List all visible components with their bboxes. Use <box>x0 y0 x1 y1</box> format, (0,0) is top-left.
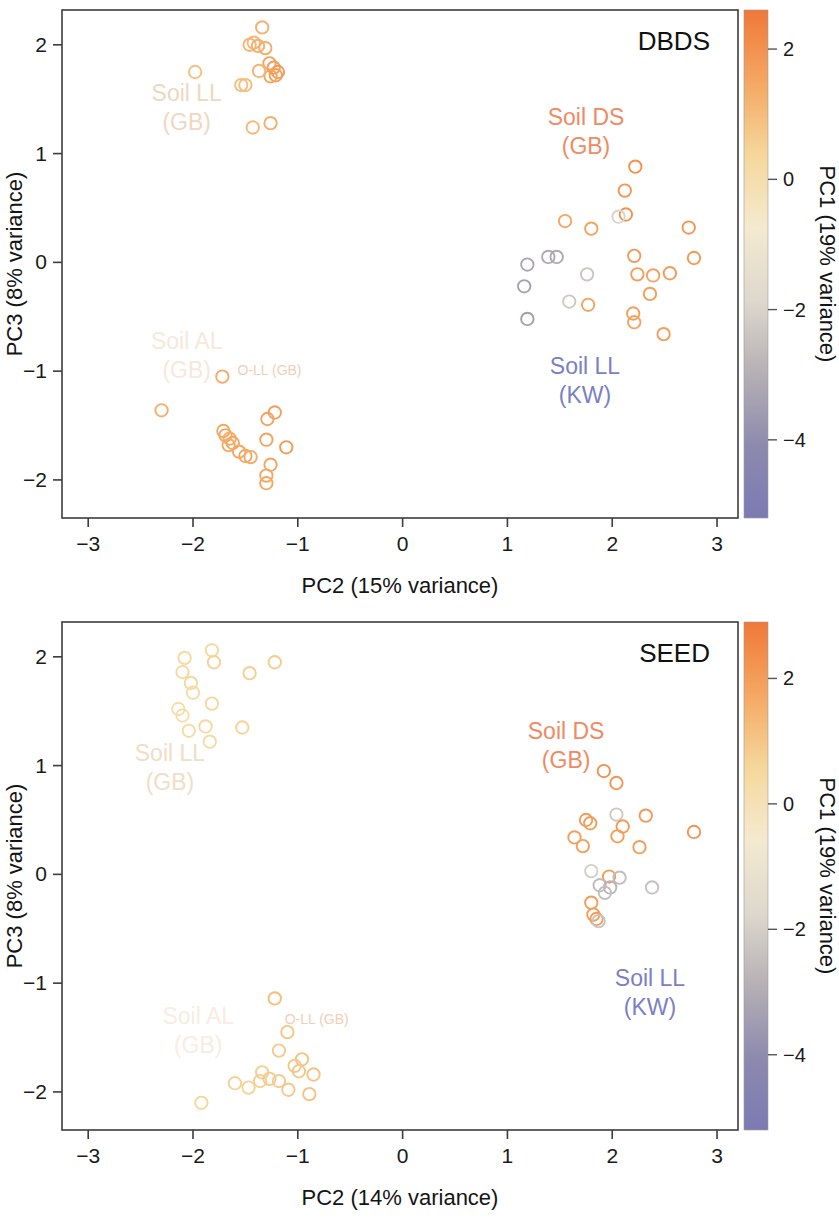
data-point <box>644 288 656 300</box>
cluster-label-line: (GB) <box>146 769 195 795</box>
data-point <box>273 1044 285 1056</box>
data-point <box>269 656 281 668</box>
data-point <box>620 208 632 220</box>
data-point <box>612 210 624 222</box>
data-point <box>581 268 593 280</box>
y-tick-label: 2 <box>35 645 47 668</box>
data-point <box>216 370 228 382</box>
data-point <box>204 735 216 747</box>
data-point <box>256 21 268 33</box>
x-tick-label: 3 <box>711 1144 723 1167</box>
x-tick-label: −1 <box>286 532 310 555</box>
data-point <box>256 1066 268 1078</box>
data-point <box>664 267 676 279</box>
x-tick-label: −2 <box>181 1144 205 1167</box>
colorbar-tick-label: −4 <box>783 429 806 451</box>
data-point <box>282 1084 294 1096</box>
cluster-label-line: (KW) <box>624 994 676 1020</box>
data-point <box>610 777 622 789</box>
cluster-label-soil-ds-gb: Soil DS(GB) <box>528 718 605 773</box>
data-point <box>303 1088 315 1100</box>
data-point <box>189 66 201 78</box>
data-point <box>582 299 594 311</box>
cluster-label-line: (KW) <box>559 382 611 408</box>
data-point <box>269 406 281 418</box>
colorbar-title: PC1 (19% variance) <box>815 778 839 975</box>
data-point <box>640 809 652 821</box>
data-point <box>259 42 271 54</box>
data-point <box>307 1068 319 1080</box>
colorbar <box>744 10 768 518</box>
x-axis-title: PC2 (15% variance) <box>302 573 499 598</box>
cluster-label-line: Soil AL <box>151 328 223 354</box>
cluster-label-soil-ll-kw: Soil LL(KW) <box>615 965 686 1020</box>
data-point <box>657 328 669 340</box>
x-tick-label: 1 <box>502 532 514 555</box>
data-point <box>559 215 571 227</box>
cluster-label-line: Soil LL <box>550 353 621 379</box>
data-point <box>176 666 188 678</box>
data-point <box>260 477 272 489</box>
cluster-label-line: Soil DS <box>548 104 625 130</box>
data-point <box>247 121 259 133</box>
data-point <box>260 433 272 445</box>
data-point <box>688 826 700 838</box>
y-tick-label: −2 <box>23 468 47 491</box>
data-point <box>631 268 643 280</box>
data-point <box>628 316 640 328</box>
y-tick-label: 0 <box>35 250 47 273</box>
cluster-label-line: Soil LL <box>152 80 223 106</box>
data-point <box>199 720 211 732</box>
panel-dbds: −2−1012−3−2−10123PC2 (15% variance)PC3 (… <box>0 0 839 612</box>
data-point <box>155 404 167 416</box>
y-tick-label: −2 <box>23 1080 47 1103</box>
data-point <box>269 992 281 1004</box>
cluster-label-line: Soil LL <box>615 965 686 991</box>
panel-title: DBDS <box>638 26 710 56</box>
cluster-label-line: (GB) <box>162 109 211 135</box>
panel-seed: −2−1012−3−2−10123PC2 (14% variance)PC3 (… <box>0 612 839 1224</box>
data-point <box>628 250 640 262</box>
data-point <box>683 221 695 233</box>
data-point <box>521 258 533 270</box>
pca-figure: −2−1012−3−2−10123PC2 (15% variance)PC3 (… <box>0 0 839 1224</box>
cluster-label-line: Soil LL <box>135 740 206 766</box>
colorbar <box>744 622 768 1130</box>
data-point <box>208 656 220 668</box>
x-tick-label: 2 <box>606 1144 618 1167</box>
cluster-label-soil-ll-gb: Soil LL(GB) <box>152 80 223 135</box>
cluster-label-o-ll-gb: O-LL (GB) <box>285 1011 349 1027</box>
colorbar-tick-label: −2 <box>783 299 806 321</box>
data-point <box>550 251 562 263</box>
panel-title: SEED <box>639 638 710 668</box>
data-point <box>183 725 195 737</box>
y-axis-title: PC3 (8% variance) <box>2 784 27 969</box>
data-point <box>206 644 218 656</box>
data-point <box>281 1026 293 1038</box>
cluster-label-line: (GB) <box>174 1032 223 1058</box>
cluster-label-line: Soil DS <box>528 718 605 744</box>
data-point <box>629 160 641 172</box>
data-point <box>518 280 530 292</box>
data-point <box>611 830 623 842</box>
scatter-points <box>172 644 700 1109</box>
plot-frame <box>62 622 738 1130</box>
x-tick-label: 2 <box>606 532 618 555</box>
x-tick-label: −1 <box>286 1144 310 1167</box>
data-point <box>688 252 700 264</box>
cluster-label-soil-al-gb: Soil AL(GB) <box>151 328 223 383</box>
data-point <box>253 65 265 77</box>
y-tick-label: 2 <box>35 33 47 56</box>
data-point <box>264 117 276 129</box>
data-point <box>236 721 248 733</box>
data-point <box>577 840 589 852</box>
data-point <box>585 865 597 877</box>
data-point <box>206 697 218 709</box>
data-point <box>243 667 255 679</box>
cluster-label-line: (GB) <box>562 133 611 159</box>
x-tick-label: 0 <box>397 532 409 555</box>
colorbar-tick-label: 0 <box>783 168 794 190</box>
colorbar-tick-label: −2 <box>783 918 806 940</box>
cluster-label-line: O-LL (GB) <box>237 362 301 378</box>
data-point <box>261 413 273 425</box>
